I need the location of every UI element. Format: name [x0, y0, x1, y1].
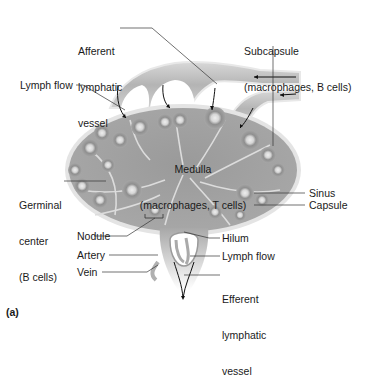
label-nodule: Nodule: [77, 230, 110, 242]
label-subcapsule: Subcapsule (macrophages, B cells): [244, 21, 351, 105]
label-germinal-center: Germinal center (B cells): [19, 175, 62, 295]
label-lymph-flow-top: Lymph flow: [20, 79, 73, 91]
label-afferent-lymphatic-vessel: Afferent lymphatic vessel: [78, 21, 122, 141]
label-artery: Artery: [77, 249, 105, 261]
hilum: [152, 228, 208, 290]
label-hilum: Hilum: [222, 232, 249, 244]
label-efferent-lymphatic-vessel: Efferent lymphatic vessel: [222, 269, 266, 379]
label-capsule: Capsule: [309, 199, 348, 211]
label-medulla: Medulla (macrophages, T cells): [133, 139, 253, 223]
label-sinus: Sinus: [309, 187, 335, 199]
label-vein: Vein: [77, 266, 97, 278]
label-lymph-flow-bottom: Lymph flow: [222, 250, 275, 262]
panel-label: (a): [6, 306, 19, 318]
